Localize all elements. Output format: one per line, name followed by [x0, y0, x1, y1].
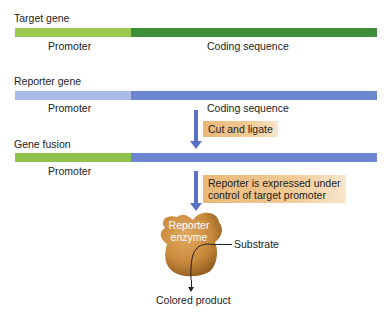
- colored-product-label: Colored product: [156, 294, 231, 306]
- target-promoter-label: Promoter: [48, 40, 91, 52]
- reporter-gene-title: Reporter gene: [14, 75, 81, 87]
- fusion-coding-segment: [131, 153, 377, 162]
- enzyme-label: Reporter enzyme: [160, 219, 218, 243]
- product-arrow-head-icon: [188, 287, 194, 292]
- target-coding-segment: [131, 28, 377, 37]
- cut-and-ligate-callout: Cut and ligate: [203, 121, 278, 137]
- substrate-line: [210, 244, 232, 245]
- target-promoter-segment: [15, 28, 131, 37]
- reporter-promoter-label: Promoter: [48, 102, 91, 114]
- reporter-coding-label: Coding sequence: [207, 102, 289, 114]
- reporter-promoter-segment: [15, 91, 131, 100]
- gene-fusion-title: Gene fusion: [14, 138, 71, 150]
- down-arrow-icon: [194, 110, 198, 141]
- down-arrow-head-icon: [190, 141, 202, 149]
- fusion-promoter-label: Promoter: [48, 165, 91, 177]
- fusion-promoter-segment: [15, 153, 131, 162]
- callout-line-1: Reporter is expressed under: [208, 177, 341, 189]
- reporter-expressed-callout: Reporter is expressed under control of t…: [203, 175, 346, 203]
- reporter-coding-segment: [131, 91, 377, 100]
- substrate-label: Substrate: [234, 238, 279, 250]
- target-gene-title: Target gene: [14, 12, 69, 24]
- callout-line-2: control of target promoter: [208, 189, 341, 201]
- down-arrow-icon: [194, 171, 198, 203]
- target-coding-label: Coding sequence: [207, 40, 289, 52]
- enzyme-label-line-1: Reporter: [160, 219, 218, 231]
- enzyme-label-line-2: enzyme: [160, 231, 218, 243]
